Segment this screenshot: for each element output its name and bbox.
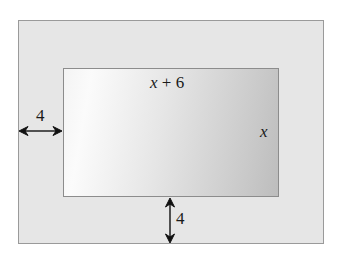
bottom-margin-arrow-icon <box>166 198 175 243</box>
left-margin-arrow-icon <box>19 127 62 136</box>
dimension-arrows <box>0 0 343 261</box>
